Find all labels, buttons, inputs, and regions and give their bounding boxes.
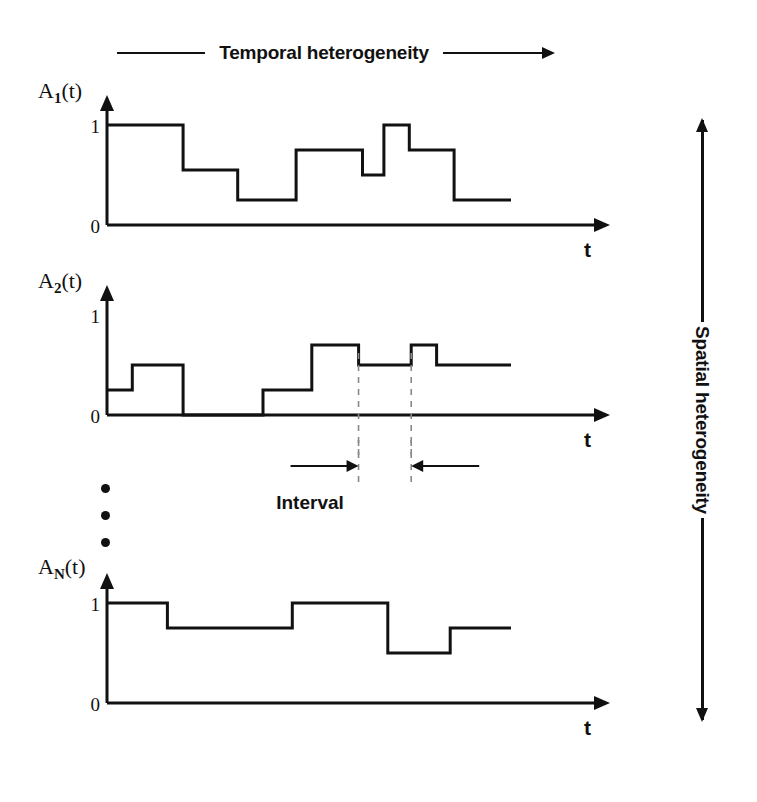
chart-an-xlabel: t (584, 716, 591, 740)
interval-annotation: Interval (0, 440, 620, 530)
arrow-right-icon (443, 52, 553, 55)
interval-label: Interval (0, 492, 620, 514)
chart-an: AN(t) 1 0 t (0, 578, 620, 748)
chart-a2-tick-1: 1 (78, 306, 100, 328)
vertical-ellipsis (101, 484, 110, 565)
spatial-heterogeneity-band: Spatial heterogeneity (672, 120, 732, 720)
chart-a1-ylabel: A1(t) (38, 78, 82, 107)
header-left-rule (117, 52, 205, 54)
chart-an-ylabel-sub: N (54, 566, 65, 582)
temporal-heterogeneity-header: Temporal heterogeneity (85, 36, 585, 70)
chart-a2-tick-0: 0 (78, 406, 100, 428)
chart-a1-tick-1: 1 (78, 116, 100, 138)
chart-a1: A1(t) 1 0 t (0, 100, 620, 270)
chart-a2-ylabel-suffix: (t) (61, 268, 82, 293)
chart-an-tick-1: 1 (78, 594, 100, 616)
chart-a1-tick-0: 0 (78, 216, 100, 238)
ellipsis-dot (101, 538, 110, 547)
chart-a1-ylabel-base: A (38, 78, 54, 103)
chart-a1-xlabel: t (584, 238, 591, 262)
chart-a2-ylabel-base: A (38, 268, 54, 293)
chart-a2-ylabel: A2(t) (38, 268, 82, 297)
chart-an-ylabel: AN(t) (38, 554, 86, 583)
figure-canvas: Temporal heterogeneity A1(t) 1 0 t A2(t)… (0, 0, 757, 802)
ellipsis-dot (101, 484, 110, 493)
interval-arrows (0, 440, 620, 492)
chart-an-tick-0: 0 (78, 694, 100, 716)
temporal-heterogeneity-label: Temporal heterogeneity (219, 42, 429, 64)
ellipsis-dot (101, 511, 110, 520)
spatial-title-wrap: Spatial heterogeneity (672, 120, 732, 720)
spatial-heterogeneity-label: Spatial heterogeneity (685, 322, 719, 518)
chart-an-ylabel-base: A (38, 554, 54, 579)
chart-an-ylabel-suffix: (t) (65, 554, 86, 579)
chart-a2: A2(t) 1 0 t (0, 290, 620, 460)
chart-a1-ylabel-suffix: (t) (61, 78, 82, 103)
